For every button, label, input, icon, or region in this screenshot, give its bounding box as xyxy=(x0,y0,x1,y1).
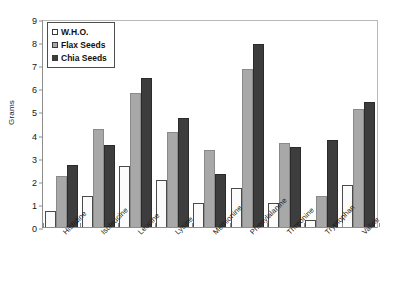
bar-group xyxy=(229,21,266,227)
bar xyxy=(141,78,152,227)
legend-item-label: Chia Seeds xyxy=(61,53,107,63)
x-axis-tick-mark xyxy=(267,223,268,227)
bar-group xyxy=(117,21,154,227)
x-axis-tick-mark xyxy=(304,223,305,227)
bar xyxy=(56,176,67,227)
y-axis-title: Grams xyxy=(7,83,16,143)
x-axis-tick-mark xyxy=(379,223,380,227)
bar-chart-figure: Grams 9876543210 HistidineIsoleucineLeuc… xyxy=(0,0,397,289)
bar-group xyxy=(340,21,377,227)
x-axis-tick-mark xyxy=(80,223,81,227)
bar xyxy=(253,44,264,227)
bar xyxy=(193,203,204,227)
legend-item: Chia Seeds xyxy=(52,53,107,63)
legend-swatch-icon xyxy=(52,55,58,61)
legend-item-label: Flax Seeds xyxy=(61,40,105,50)
bar xyxy=(316,196,327,227)
bar xyxy=(167,132,178,227)
bar xyxy=(45,211,56,227)
bar xyxy=(130,93,141,227)
legend-item-label: W.H.O. xyxy=(61,27,88,37)
x-axis-tick-mark xyxy=(43,223,44,227)
bar xyxy=(364,102,375,227)
bar-group xyxy=(303,21,340,227)
x-axis-tick-mark xyxy=(192,223,193,227)
chart-legend: W.H.O.Flax SeedsChia Seeds xyxy=(47,22,115,68)
bar-group xyxy=(191,21,228,227)
bar xyxy=(204,150,215,227)
x-axis-labels: HistidineIsoleucineLeucineLysineMethioni… xyxy=(42,230,378,288)
legend-swatch-icon xyxy=(52,42,58,48)
x-axis-tick-mark xyxy=(155,223,156,227)
legend-swatch-icon xyxy=(52,29,58,35)
bar xyxy=(327,140,338,227)
legend-item: W.H.O. xyxy=(52,27,107,37)
bar xyxy=(279,143,290,227)
legend-item: Flax Seeds xyxy=(52,40,107,50)
bar xyxy=(178,118,189,227)
bar xyxy=(93,129,104,227)
bar xyxy=(242,69,253,227)
bar-group xyxy=(266,21,303,227)
bar-group xyxy=(154,21,191,227)
